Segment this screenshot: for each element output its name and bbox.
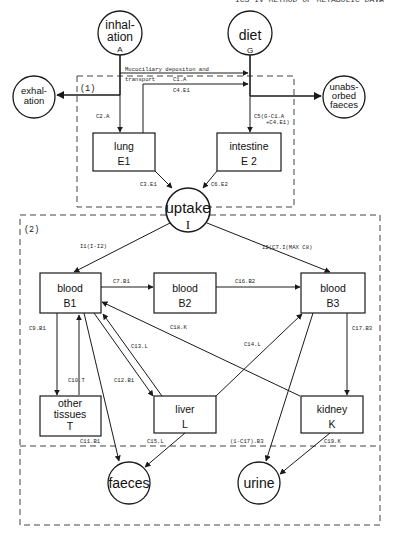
svg-text:B3: B3 xyxy=(327,297,340,309)
svg-text:lung: lung xyxy=(114,140,134,152)
svg-text:B2: B2 xyxy=(179,297,192,309)
blood-b2-compartment: blood B2 xyxy=(154,273,216,313)
lung-compartment: lung E1 xyxy=(93,133,155,171)
label-c2: C2.A xyxy=(96,113,110,120)
label-c1: C1.A xyxy=(173,76,187,83)
label-c17: C17.B3 xyxy=(352,325,372,332)
section-1-label: (1) xyxy=(80,84,95,94)
svg-text:intestine: intestine xyxy=(229,140,268,152)
label-c6: C6.E2 xyxy=(211,181,228,188)
page-number: 7/ xyxy=(375,0,385,4)
svg-text:uptake: uptake xyxy=(165,199,210,216)
svg-text:blood: blood xyxy=(172,282,198,294)
section-2-label: (2) xyxy=(24,225,39,235)
label-c13: C13.L xyxy=(131,343,148,350)
label-i1: I1(I-I2) xyxy=(80,243,107,250)
label-c19: C19.K xyxy=(324,438,341,445)
label-c15: C15.L xyxy=(147,438,164,445)
label-c14: C14.L xyxy=(244,341,261,348)
svg-text:ation: ation xyxy=(107,30,133,44)
blood-b3-compartment: blood B3 xyxy=(301,273,365,313)
blood-b1-compartment: blood B1 xyxy=(40,273,101,313)
svg-text:ation: ation xyxy=(24,95,45,106)
label-i2: I2(C7.I(MAX C8) xyxy=(262,244,312,251)
svg-text:A: A xyxy=(117,45,123,54)
svg-text:urine: urine xyxy=(243,475,274,491)
svg-text:E1: E1 xyxy=(118,155,131,167)
label-c9: C9.B1 xyxy=(29,325,46,332)
svg-text:blood: blood xyxy=(320,282,346,294)
label-transport: transport xyxy=(125,76,155,83)
section-2-boundary xyxy=(20,215,380,525)
svg-text:G: G xyxy=(247,46,253,55)
svg-text:diet: diet xyxy=(239,27,262,43)
svg-text:liver: liver xyxy=(175,403,195,415)
urine-node: urine xyxy=(238,462,280,504)
svg-text:tissues: tissues xyxy=(54,408,87,420)
diet-node: diet G xyxy=(228,11,272,55)
label-c16: C16.B2 xyxy=(235,278,255,285)
label-c5-line2: +C4.E1) xyxy=(266,119,290,126)
unabsorbed-faeces-node: unabs- orbed faeces xyxy=(323,76,365,118)
label-c18: C18.K xyxy=(170,324,187,331)
compartment-model-diagram: ICS IV METHOD OF METABOLIC DATA 7/ (1) (… xyxy=(0,0,397,538)
label-mucociliary: Mucociliary depositon and xyxy=(125,66,209,73)
uptake-node: uptake I xyxy=(165,188,210,232)
svg-text:kidney: kidney xyxy=(317,403,348,415)
other-tissues-compartment: other tissues T xyxy=(40,396,101,436)
svg-text:E 2: E 2 xyxy=(241,155,257,167)
label-c12: C12.B1 xyxy=(114,377,135,384)
label-c17b: (1-C17).B3 xyxy=(230,438,264,445)
label-c10: C10.T xyxy=(68,377,85,384)
svg-text:K: K xyxy=(328,418,335,430)
intestine-compartment: intestine E 2 xyxy=(217,133,281,171)
svg-text:I: I xyxy=(186,217,190,232)
kidney-compartment: kidney K xyxy=(301,396,363,433)
running-title: ICS IV METHOD OF METABOLIC DATA xyxy=(235,0,384,4)
svg-text:B1: B1 xyxy=(64,297,77,309)
exhalation-node: exhal- ation xyxy=(13,76,55,118)
label-c7: C7.B1 xyxy=(113,278,130,285)
label-c3: C3.E1 xyxy=(140,181,157,188)
svg-text:L: L xyxy=(182,418,188,430)
svg-text:T: T xyxy=(67,420,74,432)
inhalation-node: inhal- ation A xyxy=(98,11,142,55)
svg-text:faeces: faeces xyxy=(330,99,358,110)
svg-text:blood: blood xyxy=(57,282,83,294)
label-c11: C11.B1 xyxy=(80,438,101,445)
liver-compartment: liver L xyxy=(154,396,216,433)
faeces-node: faeces xyxy=(108,462,150,504)
label-c4: C4.E1 xyxy=(173,87,190,94)
svg-text:faeces: faeces xyxy=(108,475,149,491)
